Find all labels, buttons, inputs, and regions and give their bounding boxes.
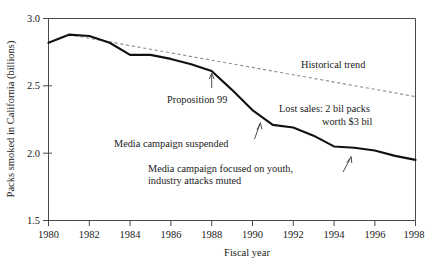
x-tick-label-1986: 1986 xyxy=(160,229,181,240)
x-tick-labels: 1980 1982 1984 1986 1988 1990 1992 1994 … xyxy=(38,229,425,240)
x-tick-label-1980: 1980 xyxy=(38,229,59,240)
x-tick-label-1998: 1998 xyxy=(404,229,425,240)
media-suspended-arrow-shaft xyxy=(255,125,260,140)
packs-smoked-data-line xyxy=(49,35,416,160)
chart-figure: 3.0 2.5 2.0 1.5 1980 1982 1984 1986 1988… xyxy=(0,0,436,274)
y-tick-label-2-5: 2.5 xyxy=(27,80,40,91)
x-axis-title: Fiscal year xyxy=(224,247,270,258)
annotation-historical-trend: Historical trend xyxy=(301,59,366,70)
annotation-media-suspended: Media campaign suspended xyxy=(114,138,229,149)
y-tick-label-1-5: 1.5 xyxy=(27,215,40,226)
y-tick-marks xyxy=(43,19,52,221)
annotation-media-youth-line1: Media campaign focused on youth, xyxy=(148,163,293,174)
y-tick-label-3-0: 3.0 xyxy=(27,13,40,24)
annotation-media-youth-line2: industry attacks muted xyxy=(148,175,242,186)
annotation-proposition-99: Proposition 99 xyxy=(167,94,227,105)
x-tick-label-1992: 1992 xyxy=(283,229,304,240)
annotation-lost-sales-line1: Lost sales: 2 bil packs xyxy=(279,103,370,114)
smoking-trend-line-chart: 3.0 2.5 2.0 1.5 1980 1982 1984 1986 1988… xyxy=(0,0,436,274)
x-tick-label-1984: 1984 xyxy=(120,229,142,240)
annotation-lost-sales-line2: worth $3 bil xyxy=(322,116,372,127)
x-tick-marks xyxy=(49,221,416,227)
y-axis-title: Packs smoked in California (billions) xyxy=(5,40,17,197)
media-youth-arrowhead xyxy=(347,157,352,164)
y-tick-labels: 3.0 2.5 2.0 1.5 xyxy=(27,13,40,226)
x-tick-label-1996: 1996 xyxy=(364,229,385,240)
x-tick-label-1982: 1982 xyxy=(79,229,100,240)
y-tick-label-2-0: 2.0 xyxy=(27,148,40,159)
x-tick-label-1994: 1994 xyxy=(324,229,346,240)
x-tick-label-1990: 1990 xyxy=(242,229,263,240)
x-tick-label-1988: 1988 xyxy=(201,229,222,240)
media-youth-arrow-shaft xyxy=(343,159,350,173)
